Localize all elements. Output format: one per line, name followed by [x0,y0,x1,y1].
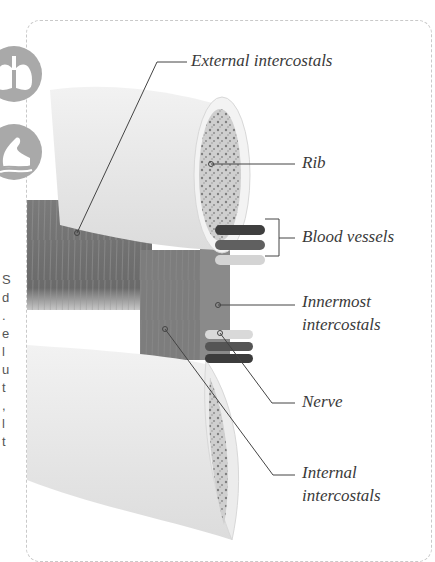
label-innermost-intercostals-line1: Innermost [302,292,371,312]
label-internal-intercostals-line1: Internal [302,463,357,483]
label-internal-intercostals-line2: intercostals [302,486,381,506]
label-innermost-intercostals-line2: intercostals [302,315,381,335]
label-nerve: Nerve [302,392,343,412]
label-rib: Rib [302,153,326,173]
label-blood-vessels: Blood vessels [302,227,394,247]
label-external-intercostals: External intercostals [191,51,333,71]
